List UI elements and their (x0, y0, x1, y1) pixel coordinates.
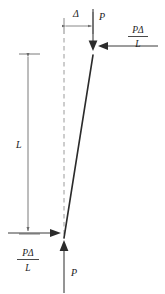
bottom-shear-fraction: PΔ L (17, 248, 39, 273)
bottom-shear-arrowhead-icon (50, 229, 61, 237)
bottom-shear-group (8, 229, 61, 237)
figure-root: Δ P PΔ L L (0, 0, 165, 294)
top-load-arrowhead-icon (89, 41, 98, 52)
bottom-load-group (60, 240, 69, 293)
top-load-label: P (98, 11, 105, 22)
top-shear-numerator: PΔ (131, 25, 144, 35)
length-label: L (15, 139, 22, 150)
bottom-load-arrowhead-icon (60, 240, 69, 251)
top-shear-arrowhead-icon (98, 42, 108, 50)
buckled-column-line (64, 55, 93, 238)
bottom-load-label: P (70, 267, 77, 278)
delta-label: Δ (72, 8, 79, 19)
column-buckling-diagram: Δ P PΔ L L (0, 0, 165, 294)
bottom-shear-denominator: L (24, 263, 30, 273)
top-shear-denominator: L (134, 39, 140, 49)
top-shear-fraction: PΔ L (128, 25, 148, 49)
top-shear-group (98, 42, 158, 50)
top-load-group (89, 9, 98, 51)
bottom-shear-numerator: PΔ (21, 248, 34, 258)
length-dimension-group (19, 54, 40, 234)
